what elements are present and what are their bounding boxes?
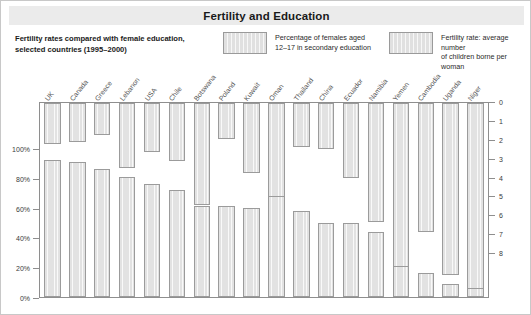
bar-group xyxy=(44,103,60,297)
bar-group xyxy=(442,103,458,297)
fertility-bar xyxy=(218,103,234,139)
y-axis-right-tick-mark xyxy=(489,121,495,122)
y-axis-right-tick-label: 8 xyxy=(499,250,503,257)
bar-group xyxy=(218,103,234,297)
chart-subtitle: Fertility rates compared with female edu… xyxy=(15,34,215,55)
education-bar xyxy=(94,169,110,297)
fertility-bar xyxy=(144,103,160,152)
y-axis-left-tick-label: 0% xyxy=(20,295,30,302)
fertility-bar xyxy=(194,103,210,205)
y-axis-right-tick-label: 2 xyxy=(499,136,503,143)
fertility-bar xyxy=(467,103,483,297)
category-label: UK xyxy=(43,90,55,102)
fertility-bar xyxy=(69,103,85,142)
education-bar xyxy=(368,232,384,297)
category-label: China xyxy=(317,83,334,102)
fertility-bar xyxy=(418,103,434,232)
y-axis-right-tick-label: 0 xyxy=(499,99,503,106)
education-bar xyxy=(293,211,309,297)
legend-swatch-fertility-icon xyxy=(389,32,433,54)
y-axis-right-tick-mark xyxy=(489,140,495,141)
education-bar xyxy=(467,288,483,297)
fertility-bar xyxy=(119,103,135,168)
y-axis-left-tick-mark xyxy=(33,298,39,299)
y-axis-left-tick-label: 100% xyxy=(12,146,30,153)
fertility-bar xyxy=(318,103,334,149)
category-label: Lebanon xyxy=(118,76,140,102)
education-bar xyxy=(343,223,359,297)
education-bar xyxy=(418,273,434,297)
y-axis-right-tick-label: 3 xyxy=(499,155,503,162)
category-label: Cambodia xyxy=(417,73,442,102)
category-labels: UKCanadaGreeceLebanonUSAChileBotswanaPol… xyxy=(39,63,489,102)
category-label: Kuwait xyxy=(243,81,261,102)
bar-group xyxy=(268,103,284,297)
education-bar xyxy=(318,223,334,297)
y-axis-right-tick-mark xyxy=(489,215,495,216)
education-bar xyxy=(194,206,210,297)
bar-group xyxy=(418,103,434,297)
y-axis-right-tick-label: 1 xyxy=(499,117,503,124)
education-bar xyxy=(119,177,135,297)
y-axis-right-tick-mark xyxy=(489,102,495,103)
bar-group xyxy=(119,103,135,297)
bar-group xyxy=(194,103,210,297)
y-axis-left: 100%80%60%40%20%0% xyxy=(1,102,39,300)
education-bar xyxy=(44,160,60,297)
bar-group xyxy=(368,103,384,297)
bar-group xyxy=(69,103,85,297)
y-axis-right-tick-mark xyxy=(489,234,495,235)
category-label: Namibia xyxy=(367,77,388,102)
bar-group xyxy=(144,103,160,297)
y-axis-right-tick-label: 5 xyxy=(499,193,503,200)
bars-container xyxy=(40,103,488,297)
category-label: Yemen xyxy=(392,81,411,102)
fertility-bar xyxy=(94,103,110,135)
category-label: Ecuador xyxy=(342,77,364,102)
chart-page: Fertility and Education Fertility rates … xyxy=(0,0,531,315)
education-bar xyxy=(69,162,85,297)
education-bar xyxy=(144,184,160,297)
legend-item-education: Percentage of females aged 12–17 in seco… xyxy=(223,32,371,54)
education-bar xyxy=(243,208,259,297)
category-label: Oman xyxy=(267,83,284,102)
category-label: Botswana xyxy=(193,73,217,102)
y-axis-right-tick-mark xyxy=(489,253,495,254)
legend-label-education: Percentage of females aged 12–17 in seco… xyxy=(275,32,371,52)
fertility-bar xyxy=(442,103,458,275)
y-axis-right-tick-mark xyxy=(489,178,495,179)
fertility-bar xyxy=(243,103,259,173)
category-label: USA xyxy=(143,86,157,102)
fertility-bar xyxy=(393,103,409,287)
category-label: Niger xyxy=(467,85,483,102)
bar-group xyxy=(393,103,409,297)
category-label: Poland xyxy=(218,81,237,102)
category-label: Canada xyxy=(68,78,89,102)
bar-group xyxy=(318,103,334,297)
bar-group xyxy=(343,103,359,297)
plot-area xyxy=(39,102,489,298)
y-axis-right-tick-label: 6 xyxy=(499,212,503,219)
category-label: Uganda xyxy=(442,78,463,102)
y-axis-right-tick-mark xyxy=(489,159,495,160)
bar-group xyxy=(293,103,309,297)
category-label: Thailand xyxy=(292,77,314,102)
education-bar xyxy=(442,284,458,297)
category-label: Chile xyxy=(168,85,183,102)
education-bar xyxy=(268,196,284,297)
y-axis-left-tick-label: 80% xyxy=(16,175,30,182)
fertility-bar xyxy=(293,103,309,147)
bar-group xyxy=(243,103,259,297)
y-axis-left-tick-label: 40% xyxy=(16,235,30,242)
fertility-bar xyxy=(343,103,359,178)
fertility-bar xyxy=(368,103,384,222)
chart-title-bar: Fertility and Education xyxy=(9,6,524,25)
legend-swatch-education-icon xyxy=(223,32,267,54)
education-bar xyxy=(169,190,185,297)
bar-group xyxy=(169,103,185,297)
y-axis-left-tick-label: 20% xyxy=(16,265,30,272)
education-bar xyxy=(393,266,409,297)
fertility-bar xyxy=(44,103,60,144)
y-axis-right-tick-mark xyxy=(489,196,495,197)
bar-group xyxy=(467,103,483,297)
